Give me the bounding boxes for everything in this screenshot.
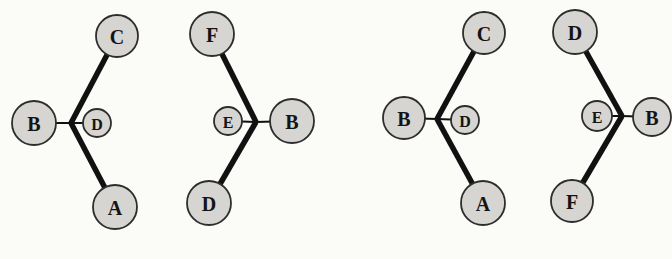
- atom-label-right-structure-1-c: C: [477, 23, 491, 45]
- atom-label-left-structure-1-a: A: [108, 197, 123, 219]
- atom-label-right-structure-1-b: B: [397, 108, 410, 130]
- atom-label-right-structure-2-b: B: [645, 107, 658, 129]
- atom-label-right-structure-2-e: E: [592, 109, 603, 126]
- molecule-group-left-structure-2: FDBE: [187, 12, 314, 225]
- atom-label-left-structure-2-d: D: [202, 193, 216, 215]
- molecule-group-right-structure-2: DFBE: [551, 10, 671, 222]
- atom-label-left-structure-1-b: B: [27, 113, 40, 135]
- atom-label-right-structure-1-a: A: [476, 193, 491, 215]
- atom-label-right-structure-2-f: F: [566, 191, 578, 213]
- atom-label-left-structure-1-d: D: [91, 116, 103, 133]
- molecule-group-right-structure-1: CABD: [383, 12, 505, 225]
- atom-label-left-structure-1-c: C: [110, 26, 124, 48]
- atom-label-left-structure-2-e: E: [223, 114, 234, 131]
- atom-label-left-structure-2-f: F: [206, 24, 218, 46]
- atom-label-right-structure-2-d: D: [568, 22, 582, 44]
- molecule-diagram: CABDFDBECABDDFBE: [0, 0, 672, 259]
- figure-canvas: CABDFDBECABDDFBE: [0, 0, 672, 259]
- atom-label-right-structure-1-d: D: [459, 113, 471, 130]
- molecule-group-left-structure-1: CABD: [12, 15, 138, 229]
- atom-label-left-structure-2-b: B: [285, 111, 298, 133]
